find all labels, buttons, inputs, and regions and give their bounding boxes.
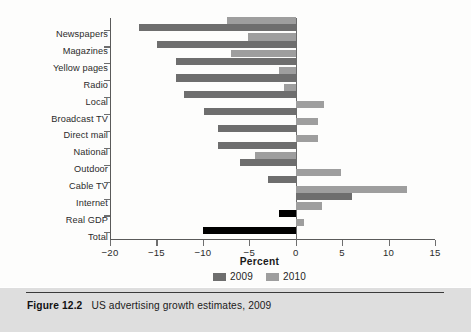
y-tick: [104, 46, 110, 47]
figure-caption: Figure 12.2 US advertising growth estima…: [27, 300, 271, 311]
figure-title: US advertising growth estimates, 2009: [91, 300, 271, 311]
x-axis-title: Percent: [0, 256, 471, 267]
bar-2010-internet: [296, 186, 407, 193]
category-label-direct-mail: Direct mail: [16, 130, 108, 140]
bar-2009-internet: [296, 193, 353, 200]
chart-legend: 2009 2010: [0, 271, 471, 282]
x-tick: [342, 240, 343, 246]
bar-2009-direct-mail: [218, 125, 296, 132]
y-axis-line: [110, 18, 111, 240]
category-label-broadcast-tv: Broadcast TV: [16, 114, 108, 124]
y-tick: [104, 63, 110, 64]
y-tick: [104, 232, 110, 233]
category-label-real-gdp: Real GDP: [16, 215, 108, 225]
y-tick: [104, 131, 110, 132]
bar-2009-total: [203, 227, 296, 234]
category-axis-labels: NewspapersMagazinesYellow pagesRadioLoca…: [8, 18, 108, 238]
y-tick: [104, 199, 110, 200]
figure-caption-bar: Figure 12.2 US advertising growth estima…: [0, 287, 471, 332]
x-tick: [110, 240, 111, 246]
category-label-outdoor: Outdoor: [16, 164, 108, 174]
category-label-internet: Internet: [16, 198, 108, 208]
x-tick: [389, 240, 390, 246]
legend-label-2009: 2009: [230, 271, 253, 282]
category-label-magazines: Magazines: [16, 46, 108, 56]
figure-container: NewspapersMagazinesYellow pagesRadioLoca…: [0, 0, 471, 332]
y-tick: [104, 80, 110, 81]
bar-2010-newspapers: [227, 17, 296, 24]
bar-2010-radio: [279, 67, 296, 74]
x-tick: [156, 240, 157, 246]
category-label-radio: Radio: [16, 80, 108, 90]
x-axis-title-text: Percent: [240, 256, 279, 267]
bar-2010-magazines: [248, 33, 295, 40]
x-axis-line: [110, 239, 435, 240]
y-tick: [104, 114, 110, 115]
category-label-newspapers: Newspapers: [16, 29, 108, 39]
bar-2009-real-gdp: [279, 210, 296, 217]
category-label-national: National: [16, 147, 108, 157]
bar-2009-broadcast-tv: [204, 108, 296, 115]
category-label-cable-tv: Cable TV: [16, 181, 108, 191]
bar-2009-newspapers: [139, 24, 296, 31]
bar-2009-local: [184, 91, 295, 98]
y-tick: [104, 165, 110, 166]
bar-2010-national: [296, 135, 318, 142]
legend-items: 2009 2010: [213, 271, 306, 282]
y-tick: [104, 148, 110, 149]
caption-rule: [26, 292, 444, 293]
bar-2009-national: [218, 142, 296, 149]
bar-2010-real-gdp: [296, 202, 322, 209]
bar-2010-total: [296, 219, 304, 226]
figure-number: Figure 12.2: [27, 300, 82, 311]
legend-label-2010: 2010: [283, 271, 306, 282]
legend-item-2010: 2010: [266, 271, 306, 282]
x-tick: [435, 240, 436, 246]
x-tick: [296, 240, 297, 246]
x-tick: [249, 240, 250, 246]
y-tick: [104, 30, 110, 31]
chart-plot-area: NewspapersMagazinesYellow pagesRadioLoca…: [0, 8, 471, 258]
category-label-total: Total: [16, 232, 108, 242]
bar-2009-yellow-pages: [176, 58, 296, 65]
bar-2010-local: [284, 84, 296, 91]
bar-2009-cable-tv: [268, 176, 296, 183]
bar-2010-outdoor: [255, 152, 296, 159]
legend-item-2009: 2009: [213, 271, 253, 282]
legend-swatch-2010: [266, 273, 279, 281]
bar-2010-cable-tv: [296, 169, 342, 176]
category-label-local: Local: [16, 97, 108, 107]
bar-2009-magazines: [157, 41, 295, 48]
y-tick: [104, 97, 110, 98]
y-tick: [104, 215, 110, 216]
bar-2009-outdoor: [240, 159, 296, 166]
bar-2009-radio: [176, 74, 296, 81]
x-tick: [203, 240, 204, 246]
legend-swatch-2009: [213, 273, 226, 281]
category-label-yellow-pages: Yellow pages: [16, 63, 108, 73]
bar-2010-yellow-pages: [231, 50, 296, 57]
bar-2010-broadcast-tv: [296, 101, 324, 108]
y-tick: [104, 182, 110, 183]
bar-2010-direct-mail: [296, 118, 318, 125]
